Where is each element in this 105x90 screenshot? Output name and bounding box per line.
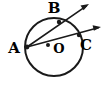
point-a-marker (25, 45, 30, 50)
point-label-a: A (7, 39, 20, 57)
circle-geometry-figure: A B C O (0, 0, 105, 90)
point-label-b: B (48, 0, 61, 17)
point-label-c: C (80, 36, 92, 54)
center-point-marker (46, 43, 50, 47)
arrowhead-ray-ac-icon (93, 25, 101, 31)
center-label-o: O (53, 41, 64, 56)
point-b-marker (57, 20, 61, 24)
geometry-diagram-canvas: A B C O (0, 0, 105, 90)
